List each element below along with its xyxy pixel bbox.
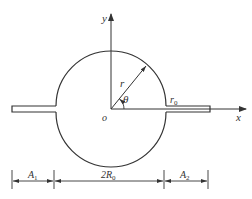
angle-label: θ [123,93,129,105]
radius-arrow [111,66,146,109]
radius-label: r [120,77,125,89]
origin-label: o [102,112,107,123]
dim-2r0-sub: 0 [112,174,116,182]
slot-label-sub: 0 [174,99,178,107]
diagram-canvas: y x o r θ r0 A1 2R0 A2 [0,0,252,199]
dim-label-a2: A2 [179,169,190,182]
left-slot [12,106,56,112]
dim-label-a1: A1 [27,169,38,182]
slot-label: r0 [170,94,178,107]
dim-a2-sub: 2 [186,174,190,182]
dim-label-2r0: 2R0 [101,169,116,182]
dim-a1-sub: 1 [34,174,38,182]
y-axis-label: y [101,12,107,24]
x-axis-label: x [235,111,241,123]
dim-2r0-main: 2R [101,169,112,180]
